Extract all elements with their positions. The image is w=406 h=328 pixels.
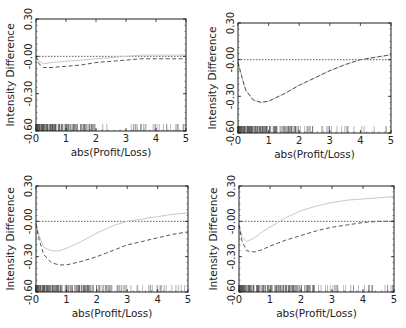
chart-canvas: 012345-0.60-0.30-0.000.30abs(Profit/Loss… [0,0,406,328]
y-axis-label: Intensity Difference [207,187,219,290]
x-tick-label: 5 [183,133,189,144]
x-axis-label: abs(Profit/Loss) [71,146,152,158]
x-tick-label: 1 [63,294,69,305]
x-tick-label: 3 [124,294,130,305]
y-tick-label: 0.30 [23,8,34,30]
figure-4-panel: 012345-0.60-0.30-0.000.30abs(Profit/Loss… [0,0,406,328]
x-axis-label: abs(Profit/Loss) [274,148,355,160]
y-tick-label: -0.60 [23,118,34,144]
series-solid-line [238,55,391,103]
plot-frame [239,186,394,292]
x-tick-label: 2 [93,133,99,144]
y-tick-label: -0.60 [225,120,236,146]
series-solid-line [36,213,188,251]
x-tick-label: 1 [63,133,69,144]
y-tick-label: -0.30 [226,244,237,270]
y-tick-label: 0.30 [225,12,236,34]
x-tick-label: 5 [391,294,397,305]
x-tick-label: 3 [123,133,129,144]
x-tick-label: 2 [298,294,304,305]
y-tick-label: 0.30 [226,175,237,197]
x-tick-label: 5 [388,135,394,146]
rug-plot [36,285,184,292]
series-dashed-line [239,221,394,252]
x-tick-label: 2 [296,135,302,146]
series-dashed-line [36,224,188,265]
chart-panel-top-right: 012345-0.60-0.30-0.000.30abs(Profit/Loss… [206,12,394,160]
x-tick-label: 2 [94,294,100,305]
y-tick-label: -0.00 [23,43,34,69]
x-tick-label: 5 [185,294,191,305]
y-tick-label: -0.60 [23,279,34,305]
y-axis-label: Intensity Difference [4,23,16,126]
y-tick-label: -0.30 [225,83,236,109]
x-axis-label: abs(Profit/Loss) [72,307,153,319]
y-tick-label: -0.00 [226,208,237,234]
x-tick-label: 4 [154,294,160,305]
y-axis-label: Intensity Difference [206,26,218,129]
x-tick-label: 1 [265,135,271,146]
chart-panel-bottom-left: 012345-0.60-0.30-0.000.30abs(Profit/Loss… [4,175,191,319]
rug-plot [239,285,393,292]
x-tick-label: 4 [360,294,366,305]
y-tick-label: -0.60 [226,279,237,305]
x-tick-label: 4 [153,133,159,144]
y-axis-label: Intensity Difference [4,187,16,290]
plot-frame [36,19,186,131]
y-tick-label: -0.30 [23,244,34,270]
rug-plot [238,126,386,133]
plot-frame [36,186,188,292]
rug-plot [36,124,185,131]
y-tick-label: 0.30 [23,175,34,197]
x-tick-label: 1 [267,294,273,305]
chart-panel-top-left: 012345-0.60-0.30-0.000.30abs(Profit/Loss… [4,8,189,158]
x-axis-label: abs(Profit/Loss) [276,307,357,319]
y-tick-label: -0.00 [23,208,34,234]
series-dashed-line [238,55,391,103]
y-tick-label: -0.00 [225,47,236,73]
y-tick-label: -0.30 [23,81,34,107]
x-tick-label: 3 [327,135,333,146]
series-solid-line [239,197,394,242]
x-tick-label: 4 [357,135,363,146]
chart-panel-bottom-right: 012345-0.60-0.30-0.000.30abs(Profit/Loss… [207,175,397,319]
x-tick-label: 3 [329,294,335,305]
